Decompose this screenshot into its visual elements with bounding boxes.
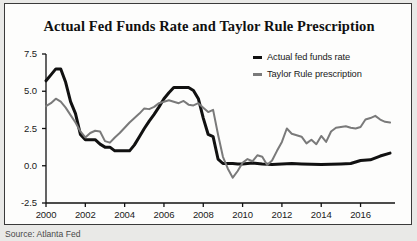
series-line-2 (46, 99, 390, 178)
chart-plot-area (5, 4, 412, 225)
x-axis-tick-label: 2008 (188, 209, 218, 220)
y-axis-tick-label: -2.5 (11, 197, 37, 208)
x-axis-tick-label: 2010 (228, 209, 258, 220)
x-axis-tick-label: 2000 (31, 209, 61, 220)
legend-label: Taylor Rule prescription (267, 69, 362, 79)
y-axis-tick-label: 2.5 (11, 123, 37, 134)
chart-panel: Actual Fed Funds Rate and Taylor Rule Pr… (4, 3, 412, 225)
y-axis-tick-label: 5.0 (11, 85, 37, 96)
x-axis-tick-label: 2014 (306, 209, 336, 220)
legend-swatch-icon (253, 56, 262, 59)
y-axis-tick-label: 0.0 (11, 160, 37, 171)
x-axis-tick-label: 2016 (346, 209, 376, 220)
chart-figure: Actual Fed Funds Rate and Taylor Rule Pr… (0, 0, 417, 241)
source-caption: Source: Atlanta Fed (5, 229, 80, 239)
chart-legend: Actual fed funds rateTaylor Rule prescri… (253, 52, 362, 86)
x-axis-tick-label: 2004 (110, 209, 140, 220)
y-axis-tick-label: 7.5 (11, 48, 37, 59)
legend-item: Taylor Rule prescription (253, 69, 362, 79)
legend-item: Actual fed funds rate (253, 52, 362, 62)
x-axis-tick-label: 2012 (267, 209, 297, 220)
legend-swatch-icon (253, 73, 262, 76)
legend-label: Actual fed funds rate (267, 52, 350, 62)
x-axis-tick-label: 2002 (70, 209, 100, 220)
x-axis-tick-label: 2006 (149, 209, 179, 220)
